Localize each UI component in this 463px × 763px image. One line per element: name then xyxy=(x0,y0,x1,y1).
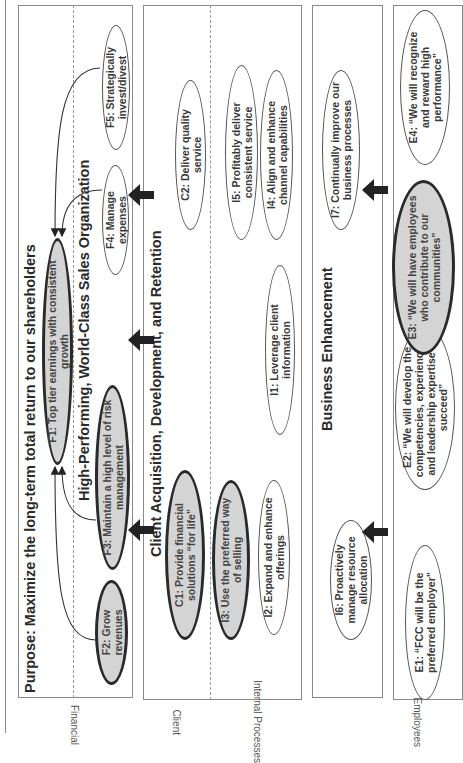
arrow-up-icon xyxy=(128,519,154,541)
objective-i2[interactable]: I2: Expand and enhance offerings xyxy=(258,480,290,635)
perspective-label-client: Client xyxy=(171,709,182,735)
financial-divider xyxy=(73,5,74,698)
objective-i5[interactable]: I5: Profitably deliver consistent servic… xyxy=(225,65,258,240)
objective-i7[interactable]: I7: Continually improve our business pro… xyxy=(322,70,360,230)
objective-e4[interactable]: E4: “We will recognize and reward high p… xyxy=(400,10,450,165)
vision-title: High-Performing, World-Class Sales Organ… xyxy=(76,160,92,501)
arrow-up-icon xyxy=(362,179,388,201)
objective-f1[interactable]: F1: Top tier earnings with consistent gr… xyxy=(42,238,73,465)
objective-c2[interactable]: C2: Deliver quality service xyxy=(175,80,206,230)
objective-e3[interactable]: E3: “We will have employees who contribu… xyxy=(392,180,455,355)
objective-f4[interactable]: F4: Manage expenses xyxy=(102,165,129,275)
objective-e1[interactable]: E1: “FCC will be the preferred employer” xyxy=(405,545,445,700)
client-internal-divider xyxy=(210,5,211,700)
objective-f5[interactable]: F5: Strategically invest/divest xyxy=(102,25,130,150)
purpose-title: Purpose: Maximize the long-term total re… xyxy=(22,244,38,693)
objective-i4[interactable]: I4: Align and enhance channel capabiliti… xyxy=(260,70,293,240)
objective-f3[interactable]: F3: Maintain a high level of risk manage… xyxy=(95,385,130,570)
arrow-up-icon xyxy=(128,184,154,206)
objective-f2[interactable]: F2: Grow revenues xyxy=(95,580,128,685)
arrow-up-icon xyxy=(362,521,388,543)
perspective-label-internal: Internal Processes xyxy=(252,680,263,763)
objective-i1[interactable]: I1: Leverage client information xyxy=(265,265,295,435)
perspective-label-employees: Employees xyxy=(412,698,423,747)
perspective-label-financial: Financial xyxy=(69,705,80,745)
objective-c1[interactable]: C1: Provide financial solutions “for lif… xyxy=(165,470,205,640)
arrow-up-icon xyxy=(128,329,154,351)
business-title: Business Enhancement xyxy=(319,267,335,431)
client-title: Client Acquisition, Development, and Ret… xyxy=(148,230,164,557)
objective-i3[interactable]: I3: Use the preferred way of selling xyxy=(212,480,250,640)
outer-border xyxy=(5,0,6,733)
